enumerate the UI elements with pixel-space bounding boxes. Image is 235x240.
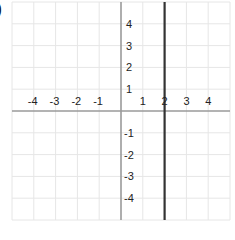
- y-tick-label: -1: [124, 127, 134, 139]
- coordinate-grid: [0, 0, 235, 240]
- x-tick-label: -4: [28, 95, 38, 107]
- y-tick-label: -2: [124, 149, 134, 161]
- x-tick-label: -1: [93, 95, 103, 107]
- x-tick-label: 3: [183, 95, 189, 107]
- x-tick-label: -3: [50, 95, 60, 107]
- y-tick-label: 3: [126, 40, 132, 52]
- x-tick-label: -2: [71, 95, 81, 107]
- y-tick-label: -4: [124, 192, 134, 204]
- x-tick-label: 2: [162, 95, 168, 107]
- x-tick-label: 4: [205, 95, 211, 107]
- x-tick-label: 1: [140, 95, 146, 107]
- y-tick-label: 1: [126, 83, 132, 95]
- y-tick-label: 2: [126, 61, 132, 73]
- y-tick-label: -3: [124, 170, 134, 182]
- y-tick-label: 4: [126, 18, 132, 30]
